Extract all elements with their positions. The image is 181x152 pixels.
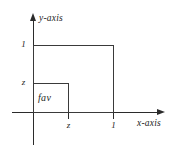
region-annotation-label: fav: [38, 92, 51, 103]
x-tick-label-one: 1: [108, 120, 119, 130]
probability-region-diagram: y-axis x-axis 1 z z 1 fav: [0, 0, 181, 152]
y-axis-arrowhead-icon: [30, 13, 36, 21]
x-tick-mark-one: [113, 113, 114, 119]
x-axis-title: x-axis: [137, 118, 161, 128]
y-axis-title: y-axis: [39, 13, 63, 23]
y-tick-label-z: z: [18, 77, 29, 87]
y-tick-label-one: 1: [18, 39, 29, 49]
x-tick-label-z: z: [63, 120, 74, 130]
x-tick-mark-z: [68, 113, 69, 119]
x-axis-arrowhead-icon: [157, 109, 165, 115]
